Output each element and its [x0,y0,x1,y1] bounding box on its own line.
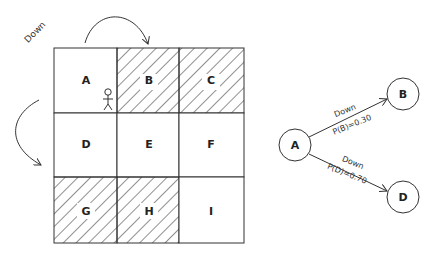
grid-cell-c: C [179,48,244,113]
stochastic-gridworld-diagram: Down A B C D E F [0,0,430,259]
svg-text:F: F [207,138,215,151]
svg-text:D: D [81,138,90,151]
svg-text:H: H [144,205,153,218]
grid-cell-d: D [54,113,117,177]
svg-text:E: E [145,138,153,151]
svg-text:A: A [291,139,300,152]
node-d: D [387,181,419,213]
grid-cell-g: G [54,177,117,243]
arc-arrow-top [85,17,148,44]
action-label: Down [22,19,47,44]
svg-text:C: C [207,74,215,87]
svg-text:A: A [82,74,91,87]
node-a: A [279,129,311,161]
grid-cell-b: B [117,48,179,113]
svg-text:D: D [398,191,407,204]
arc-arrow-left [16,100,41,165]
transition-tree: Down P(B)=0.30 Down P(D)=0.70 A B D [279,78,419,213]
svg-text:B: B [399,88,407,101]
edge-a-to-b-action: Down [333,102,357,119]
grid: A B C D E F G [54,48,244,243]
grid-cell-e: E [117,113,179,177]
svg-text:G: G [81,205,90,218]
svg-text:B: B [145,74,153,87]
grid-cell-h: H [117,177,179,243]
svg-text:I: I [209,205,213,218]
node-b: B [387,78,419,110]
grid-cell-f: F [179,113,244,177]
grid-cell-i: I [179,177,244,243]
